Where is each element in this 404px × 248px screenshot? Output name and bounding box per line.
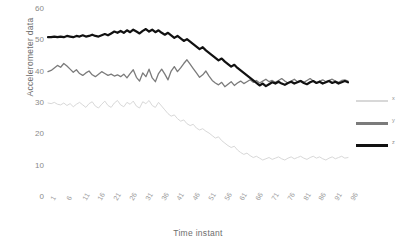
y-tick-label: 0 bbox=[22, 192, 44, 201]
legend-item[interactable]: x bbox=[356, 92, 402, 114]
y-tick-label: 20 bbox=[22, 129, 44, 138]
legend-line-swatch bbox=[356, 100, 388, 102]
y-tick-label: 40 bbox=[22, 67, 44, 76]
legend-label: x bbox=[392, 95, 395, 101]
legend-line-swatch bbox=[356, 144, 388, 147]
x-tick-label: 21 bbox=[112, 191, 122, 201]
x-axis-tick-labels: 16111621263136414651566166717681869196 bbox=[48, 198, 348, 224]
x-tick-label: 71 bbox=[270, 191, 280, 201]
y-axis-tick-labels: 0102030405060 bbox=[22, 0, 44, 210]
series-canvas bbox=[48, 9, 348, 197]
series-line-x bbox=[48, 100, 348, 160]
x-axis-title: Time instant bbox=[48, 228, 348, 238]
legend: xyz bbox=[356, 92, 402, 158]
series-line-z bbox=[48, 29, 348, 86]
plot-area bbox=[48, 9, 348, 197]
legend-item[interactable]: y bbox=[356, 114, 402, 136]
chart-figure: Accelerometer data 0102030405060 1611162… bbox=[0, 0, 404, 248]
legend-item[interactable]: z bbox=[356, 136, 402, 158]
y-tick-label: 10 bbox=[22, 161, 44, 170]
y-tick-label: 30 bbox=[22, 98, 44, 107]
legend-label: y bbox=[392, 117, 395, 123]
x-tick-label: 96 bbox=[349, 191, 359, 201]
y-tick-label: 50 bbox=[22, 35, 44, 44]
y-tick-label: 60 bbox=[22, 4, 44, 13]
legend-line-swatch bbox=[356, 122, 388, 125]
legend-label: z bbox=[392, 139, 395, 145]
x-tick-label: 91 bbox=[333, 191, 343, 201]
x-tick-label: 46 bbox=[191, 191, 201, 201]
